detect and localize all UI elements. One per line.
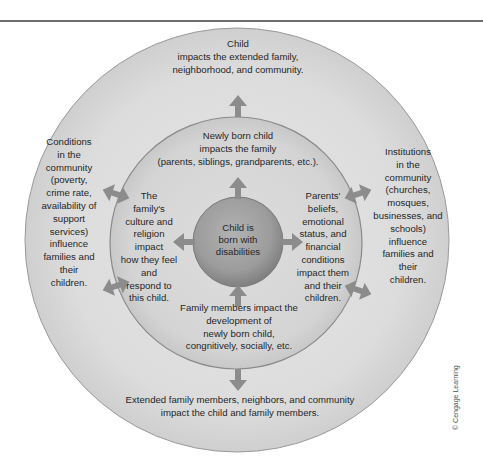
inner-circle-label: Child is born with disabilities [196,222,280,259]
outer-left-label: Conditions in the community (poverty, cr… [28,136,110,290]
middle-left-label: The family's culture and religion impact… [116,190,182,305]
middle-bottom-label: Family members impact the development of… [144,302,334,353]
outer-right-label: Institutions in the community (churches,… [372,146,444,287]
outer-bottom-label: Extended family members, neighbors, and … [70,394,410,420]
middle-top-label: Newly born child impacts the family (par… [138,130,338,168]
outer-top-label: Child impacts the extended family, neigh… [140,38,336,76]
middle-right-label: Parents' beliefs, emotional status, and … [292,190,354,305]
copyright-credit: © Cengage Learning [452,350,464,430]
